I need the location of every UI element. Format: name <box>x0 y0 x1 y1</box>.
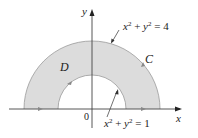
curve-label: C <box>145 53 153 65</box>
y-axis-label: y <box>82 6 87 17</box>
region-label: D <box>60 61 69 73</box>
inner-leader-line <box>107 91 117 117</box>
outer-eq-exp-x: 2 <box>128 20 132 28</box>
origin-label: 0 <box>84 112 89 122</box>
y-axis-arrow-icon <box>90 9 95 16</box>
inner-eq-rhs: = 1 <box>135 117 149 129</box>
x-axis-arrow-icon <box>175 107 182 112</box>
inner-circle-equation: x2 + y2 = 1 <box>104 118 150 129</box>
x-axis-label: x <box>176 113 181 124</box>
outer-circle-equation: x2 + y2 = 4 <box>123 21 169 32</box>
inner-leader-arrow-icon <box>115 89 119 95</box>
inner-eq-exp-x: 2 <box>109 117 113 125</box>
inner-eq-exp-y: 2 <box>129 117 133 125</box>
outer-eq-exp-y: 2 <box>148 20 152 28</box>
outer-eq-rhs: = 4 <box>154 20 168 32</box>
